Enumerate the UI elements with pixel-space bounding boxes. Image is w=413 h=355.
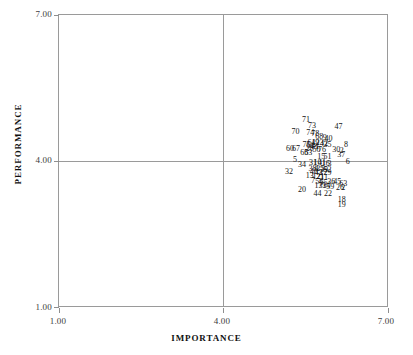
data-point-label: 6: [346, 158, 350, 166]
horizontal-gridline-4: [59, 161, 387, 162]
y-tick-4: [54, 161, 59, 162]
data-point-label: 19: [338, 201, 346, 209]
data-point-label: 70: [292, 128, 300, 136]
x-tick-7: [388, 308, 389, 313]
y-tick-7: [54, 15, 59, 16]
data-point-label: 47: [334, 123, 342, 131]
data-point-label: 20: [298, 186, 306, 194]
data-point-label: 34: [298, 161, 306, 169]
x-tick-4: [223, 308, 224, 313]
x-tick-1: [59, 308, 60, 313]
data-point-label: 53: [304, 149, 312, 157]
x-axis-tick-label-left: 1.00: [38, 316, 78, 326]
scatter-chart: 7173477074786894061492342358756448160672…: [0, 0, 413, 355]
data-point-label: 22: [324, 190, 332, 198]
data-point-label: 44: [314, 190, 322, 198]
data-point-label: 67: [292, 145, 300, 153]
data-point-label: 37: [337, 151, 345, 159]
data-point-label: 32: [285, 168, 293, 176]
y-axis-tick-label-top: 7.00: [18, 9, 52, 19]
y-axis-tick-label-bottom: 1.00: [18, 302, 52, 312]
x-axis-tick-label-right: 7.00: [366, 316, 406, 326]
x-axis-tick-label-mid: 4.00: [202, 316, 242, 326]
x-axis-title: IMPORTANCE: [0, 333, 413, 343]
data-point-label: 2: [341, 184, 345, 192]
plot-area: 7173477074786894061492342358756448160672…: [58, 14, 388, 307]
y-axis-title: PERFORMANCE: [13, 74, 23, 214]
data-point-label: 5: [293, 156, 297, 164]
y-axis-tick-label-mid: 4.00: [18, 155, 52, 165]
data-point-label: 8: [344, 141, 348, 149]
